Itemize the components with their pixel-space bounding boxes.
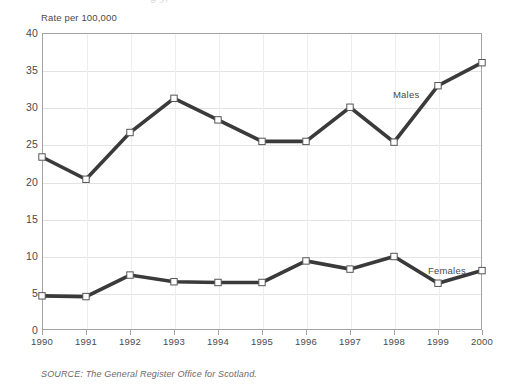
data-point-marker	[347, 104, 353, 110]
x-axis-labels: 1990199119921993199419951996199719981999…	[42, 336, 482, 352]
y-tick-label: 15	[12, 213, 38, 225]
y-tick-label: 25	[12, 138, 38, 150]
data-point-marker	[171, 95, 177, 101]
source-note: SOURCE: The General Register Office for …	[41, 369, 257, 379]
data-point-marker	[215, 279, 221, 285]
y-tick-label: 0	[12, 324, 38, 336]
data-point-marker	[171, 279, 177, 285]
x-tick-label: 1997	[328, 336, 372, 347]
x-tick-mark	[350, 330, 351, 335]
x-tick-mark	[218, 330, 219, 335]
x-tick-mark	[42, 330, 43, 335]
x-tick-label: 1996	[284, 336, 328, 347]
x-tick-label: 1999	[416, 336, 460, 347]
x-tick-mark	[306, 330, 307, 335]
x-tick-mark	[262, 330, 263, 335]
data-point-marker	[215, 117, 221, 123]
data-point-marker	[303, 138, 309, 144]
x-tick-mark	[394, 330, 395, 335]
series-layer	[42, 33, 482, 330]
x-tick-label: 1994	[196, 336, 240, 347]
y-tick-label: 5	[12, 287, 38, 299]
data-point-marker	[479, 60, 485, 66]
data-point-marker	[435, 83, 441, 89]
x-tick-label: 1993	[152, 336, 196, 347]
x-tick-label: 1991	[64, 336, 108, 347]
data-point-marker	[479, 267, 485, 273]
series-line-females	[42, 256, 482, 296]
y-tick-label: 35	[12, 64, 38, 76]
clipped-title-text: g y,	[150, 0, 169, 3]
x-tick-label: 2000	[460, 336, 504, 347]
x-tick-label: 1998	[372, 336, 416, 347]
x-tick-label: 1992	[108, 336, 152, 347]
x-tick-mark	[438, 330, 439, 335]
data-point-marker	[259, 138, 265, 144]
y-tick-label: 20	[12, 176, 38, 188]
x-tick-mark	[482, 330, 483, 335]
data-point-marker	[83, 293, 89, 299]
x-tick-label: 1995	[240, 336, 284, 347]
data-point-marker	[39, 154, 45, 160]
x-tick-mark	[130, 330, 131, 335]
y-tick-label: 10	[12, 250, 38, 262]
clipped-title-strip: g y,	[0, 0, 507, 7]
x-tick-mark	[174, 330, 175, 335]
data-point-marker	[391, 139, 397, 145]
data-point-marker	[347, 266, 353, 272]
x-tick-label: 1990	[20, 336, 64, 347]
x-tick-mark	[86, 330, 87, 335]
data-point-marker	[303, 258, 309, 264]
data-point-marker	[127, 272, 133, 278]
data-point-marker	[39, 293, 45, 299]
data-point-marker	[435, 280, 441, 286]
data-point-marker	[259, 279, 265, 285]
series-label-females: Females	[428, 265, 466, 276]
data-point-marker	[127, 129, 133, 135]
data-point-marker	[83, 176, 89, 182]
y-axis-caption: Rate per 100,000	[41, 12, 117, 23]
y-axis-labels: 0510152025303540	[8, 33, 38, 330]
data-point-marker	[391, 253, 397, 259]
y-tick-label: 40	[12, 27, 38, 39]
y-tick-label: 30	[12, 101, 38, 113]
series-line-males	[42, 63, 482, 180]
series-label-males: Males	[393, 89, 419, 100]
